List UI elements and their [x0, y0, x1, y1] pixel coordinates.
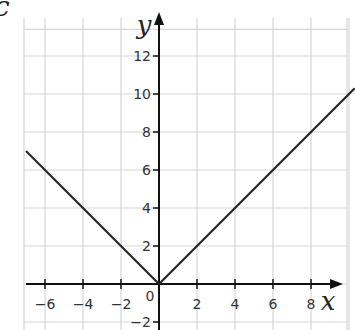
x-tick-label: 8 — [307, 296, 316, 312]
x-tick-label: −6 — [35, 296, 56, 312]
x-tick-label: 2 — [193, 296, 202, 312]
y-tick-label: 4 — [142, 200, 151, 216]
function-line — [26, 88, 355, 284]
y-tick-label: 8 — [142, 124, 151, 140]
origin-label: 0 — [146, 288, 155, 304]
y-axis-label: y — [136, 10, 152, 40]
x-tick-label: 6 — [269, 296, 278, 312]
y-axis-arrow-icon — [154, 12, 164, 25]
y-tick-label: 10 — [133, 86, 151, 102]
x-tick-label: −2 — [111, 296, 132, 312]
graph-plot: −6−4−22468−2246810120xy — [0, 0, 355, 330]
x-axis-label: x — [321, 286, 336, 316]
x-tick-label: 4 — [231, 296, 240, 312]
x-tick-label: −4 — [73, 296, 94, 312]
y-tick-label: 2 — [142, 238, 151, 254]
y-tick-label: −2 — [130, 314, 151, 330]
y-tick-label: 6 — [142, 162, 151, 178]
y-tick-label: 12 — [133, 48, 151, 64]
